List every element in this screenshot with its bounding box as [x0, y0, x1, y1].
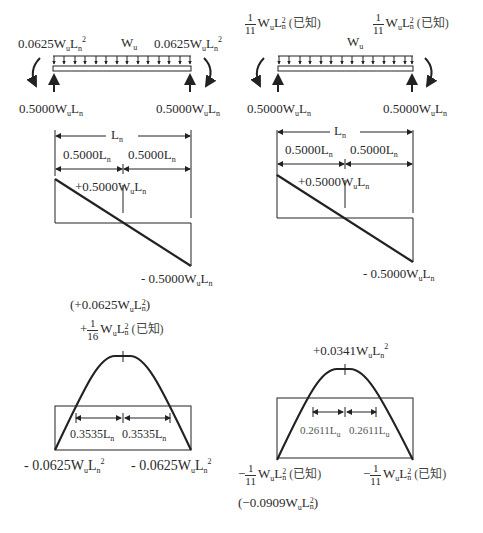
- right-moment-end-left-label: −111WuL2n(已知): [238, 463, 321, 487]
- left-half-span-left-label: 0.5000Ln: [63, 148, 111, 164]
- left-moment-end-right-label: - 0.0625WuLn2: [131, 458, 211, 475]
- left-half-span-right-label: 0.5000Ln: [128, 148, 176, 164]
- right-shear-max-positive-label: +0.5000WuLn: [298, 175, 369, 191]
- left-reaction-right-label: 0.5000WuLn: [156, 102, 220, 118]
- left-moment-zero-left-label: 0.3535Ln: [70, 428, 114, 443]
- right-reaction-left-label: 0.5000WuLn: [247, 102, 311, 118]
- right-span-label: Ln: [334, 124, 346, 140]
- right-moment-diagram: [277, 364, 413, 460]
- right-moment-zero-right-label: 0.2611Lu: [349, 425, 390, 439]
- left-moment-arrow-right: [204, 58, 211, 86]
- right-moment-peak-label: +0.0341WuLn2: [313, 343, 388, 360]
- left-beam: [33, 56, 211, 92]
- right-moment-arrow-left: [257, 58, 264, 86]
- right-half-span-right-label: 0.5000Ln: [350, 143, 398, 159]
- left-moment-peak-fraction-label: +116WuL2n(已知): [80, 318, 164, 342]
- left-load-label: Wu: [121, 36, 137, 52]
- right-beam-body: [278, 66, 413, 71]
- right-beam: [257, 56, 432, 92]
- right-moment-end-right-label: −111WuL2n(已知): [363, 463, 446, 487]
- left-beam-body: [53, 66, 191, 71]
- left-reaction-left-label: 0.5000WuLn: [19, 102, 83, 118]
- left-moment-end-left-label: - 0.0625WuLn2: [24, 458, 104, 475]
- right-moment-end-numeric-label: (−0.0909WuL2n): [238, 496, 318, 512]
- right-reaction-right-label: 0.5000WuLn: [383, 102, 447, 118]
- right-moment-zero-left-label: 0.2611Lu: [300, 425, 341, 439]
- left-shear-max-positive-label: +0.5000WuLn: [75, 180, 146, 196]
- right-moment-arrow-right: [425, 58, 432, 86]
- right-end-moment-left-label: 111WuL2n(已知): [245, 12, 321, 36]
- left-end-moment-left-label: 0.0625WuLn2: [18, 36, 86, 53]
- left-moment-zero-right-label: 0.3535Ln: [122, 428, 166, 443]
- left-span-label: Ln: [111, 128, 123, 144]
- right-shear-max-negative-label: - 0.5000WuLn: [363, 267, 435, 283]
- left-moment-peak-numeric-label: (+0.0625WuL2n): [70, 298, 150, 314]
- left-moment-arrow-left: [33, 58, 40, 86]
- left-shear-max-negative-label: - 0.5000WuLn: [141, 272, 213, 288]
- right-half-span-left-label: 0.5000Ln: [285, 143, 333, 159]
- right-distributed-load: [279, 56, 412, 64]
- left-distributed-load: [54, 56, 190, 64]
- right-load-label: Wu: [347, 35, 363, 51]
- left-end-moment-right-label: 0.0625WuLn2: [154, 36, 222, 53]
- right-end-moment-right-label: 111WuL2n(已知): [373, 12, 449, 36]
